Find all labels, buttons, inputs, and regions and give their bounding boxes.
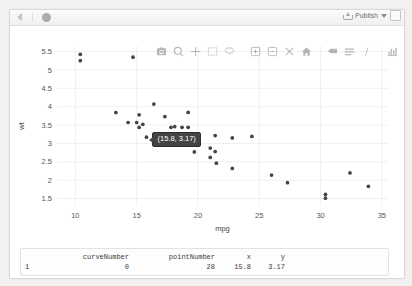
column-header-x: x: [215, 252, 251, 262]
toolbar-divider: [32, 13, 33, 22]
svg-text:2: 2: [48, 176, 52, 185]
svg-text:2.5: 2.5: [42, 157, 52, 166]
column-header-pointnumber: pointNumber: [129, 252, 215, 262]
plotly-logo-icon[interactable]: [387, 46, 398, 57]
svg-text:wt: wt: [17, 121, 26, 130]
lasso-select-icon[interactable]: [224, 46, 235, 57]
zoom-out-icon[interactable]: [267, 46, 278, 57]
svg-text:10: 10: [71, 211, 79, 220]
stop-icon[interactable]: [40, 11, 52, 23]
chart-canvas: 1.522.533.544.555.5101520253035mpgwt: [10, 40, 404, 240]
popout-window-icon[interactable]: [390, 10, 401, 21]
cell-y: 3.17: [251, 262, 285, 272]
svg-text:15: 15: [133, 211, 141, 220]
autoscale-icon[interactable]: [284, 46, 295, 57]
publish-icon: [343, 12, 352, 20]
publish-label: Publish: [355, 12, 378, 19]
table-header-row: curveNumber pointNumber x y: [21, 252, 388, 262]
camera-icon[interactable]: [156, 46, 167, 57]
row-index: 1: [25, 262, 51, 272]
table-row: 1 0 28 15.8 3.17: [21, 262, 388, 272]
plotly-scatter-plot[interactable]: 1.522.533.544.555.5101520253035mpgwt (15…: [10, 40, 404, 240]
zoom-in-icon[interactable]: [250, 46, 261, 57]
hover-compare-icon[interactable]: [327, 46, 338, 57]
cell-curvenumber: 0: [51, 262, 129, 272]
viewer-titlebar: Publish: [10, 10, 404, 26]
event-data-table: curveNumber pointNumber x y 1 0 28 15.8 …: [20, 248, 389, 276]
svg-text:mpg: mpg: [215, 224, 230, 233]
publish-button[interactable]: Publish: [343, 12, 378, 20]
svg-text:20: 20: [194, 211, 202, 220]
spike-lines-icon[interactable]: [361, 46, 372, 57]
svg-text:1.5: 1.5: [42, 194, 52, 203]
viewer-content: 1.522.533.544.555.5101520253035mpgwt (15…: [10, 26, 404, 278]
column-header-curvenumber: curveNumber: [51, 252, 129, 262]
svg-text:3: 3: [48, 139, 52, 148]
column-header-y: y: [251, 252, 285, 262]
svg-text:25: 25: [255, 211, 263, 220]
svg-text:5.5: 5.5: [42, 47, 52, 56]
hover-tooltip: (15.8, 3.17): [152, 132, 200, 147]
rstudio-viewer-pane: Publish: [9, 9, 405, 279]
viewer-nav-group: [13, 11, 52, 23]
reset-axes-icon[interactable]: [301, 46, 312, 57]
svg-text:30: 30: [316, 211, 324, 220]
svg-text:35: 35: [378, 211, 386, 220]
chevron-down-icon[interactable]: [381, 14, 387, 18]
svg-text:4.5: 4.5: [42, 84, 52, 93]
svg-text:4: 4: [48, 102, 52, 111]
svg-text:3.5: 3.5: [42, 121, 52, 130]
pan-icon[interactable]: [190, 46, 201, 57]
viewer-actions-group: Publish: [343, 10, 401, 21]
hover-closest-icon[interactable]: [344, 46, 355, 57]
svg-text:5: 5: [48, 66, 52, 75]
plotly-modebar: [156, 43, 398, 59]
back-icon[interactable]: [13, 11, 25, 23]
cell-pointnumber: 28: [129, 262, 215, 272]
box-select-icon[interactable]: [207, 46, 218, 57]
zoom-icon[interactable]: [173, 46, 184, 57]
cell-x: 15.8: [215, 262, 251, 272]
